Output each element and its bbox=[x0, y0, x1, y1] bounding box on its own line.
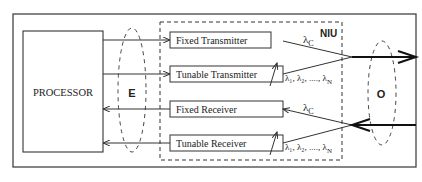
tunable-receiver-block: Tunable Receiver bbox=[170, 135, 283, 151]
electrical-interface-label: E bbox=[128, 87, 135, 99]
tunable-tx-wavelengths: λ₁, λ₂, ...., λN bbox=[285, 73, 332, 86]
tunable-transmitter-label: Tunable Transmitter bbox=[176, 69, 258, 80]
processor-label: PROCESSOR bbox=[33, 87, 93, 98]
niu-diagram: PROCESSOR NIU E O Fixed Transmitter Tuna… bbox=[0, 0, 422, 182]
optical-interface-label: O bbox=[377, 88, 386, 100]
niu-label: NIU bbox=[320, 28, 337, 39]
fixed-transmitter-label: Fixed Transmitter bbox=[176, 35, 248, 46]
tunable-transmitter-block: Tunable Transmitter bbox=[170, 66, 283, 82]
fixed-transmitter-block: Fixed Transmitter bbox=[170, 32, 271, 48]
tunable-receiver-label: Tunable Receiver bbox=[176, 138, 247, 149]
fixed-receiver-label: Fixed Receiver bbox=[176, 104, 237, 115]
fixed-receiver-block: Fixed Receiver bbox=[170, 101, 283, 117]
tunable-rx-wavelengths: λ₁, λ₂, ...., λN bbox=[285, 142, 332, 155]
